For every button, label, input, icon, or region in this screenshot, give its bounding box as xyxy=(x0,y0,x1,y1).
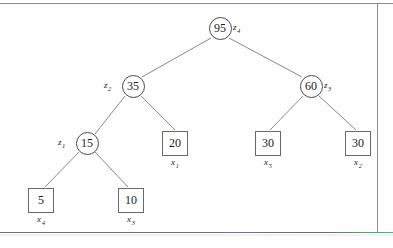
internal-node-left[interactable]: 35 xyxy=(122,75,145,98)
internal-node-right[interactable]: 60 xyxy=(300,75,323,98)
tree-edge xyxy=(95,152,128,187)
leaf-node-label-leaf10: x3 xyxy=(116,214,146,226)
leaf-node-leaf5[interactable]: 5 xyxy=(28,188,54,213)
internal-node-ll[interactable]: 15 xyxy=(76,132,99,155)
tree-edge xyxy=(45,152,79,187)
label-subscript: 2 xyxy=(358,162,362,169)
label-subscript: 1 xyxy=(62,142,66,149)
internal-node-label-root: z4 xyxy=(233,22,240,34)
leaf-node-label-leaf30a: x5 xyxy=(253,157,283,169)
label-subscript: 4 xyxy=(41,219,45,226)
tree-edge xyxy=(142,38,211,77)
leaf-node-leaf30a[interactable]: 30 xyxy=(255,131,281,156)
binary-tree-figure: 95z435z260z315z120x130x530x25x410x3 xyxy=(0,0,393,248)
label-subscript: 4 xyxy=(237,27,241,34)
tree-edge xyxy=(95,96,125,134)
internal-node-label-left: z2 xyxy=(104,80,111,92)
tree-edges xyxy=(0,0,393,248)
tree-edge xyxy=(270,96,303,130)
tree-edge xyxy=(319,96,356,130)
internal-node-label-ll: z1 xyxy=(58,137,65,149)
label-subscript: 2 xyxy=(108,85,112,92)
leaf-node-label-leaf5: x4 xyxy=(26,214,56,226)
leaf-node-label-leaf30b: x2 xyxy=(343,157,373,169)
leaf-node-leaf30b[interactable]: 30 xyxy=(345,131,371,156)
tree-edge xyxy=(141,96,175,130)
label-symbol: z xyxy=(58,137,62,147)
label-subscript: 5 xyxy=(268,162,272,169)
label-symbol: z xyxy=(104,80,108,90)
label-subscript: 3 xyxy=(131,219,135,226)
internal-node-root[interactable]: 95 xyxy=(209,17,232,40)
label-subscript: 1 xyxy=(175,162,179,169)
label-symbol: z xyxy=(324,80,328,90)
tree-edge xyxy=(229,38,302,77)
label-subscript: 3 xyxy=(328,85,332,92)
label-symbol: z xyxy=(233,22,237,32)
leaf-node-leaf20[interactable]: 20 xyxy=(162,131,188,156)
leaf-node-leaf10[interactable]: 10 xyxy=(118,188,144,213)
internal-node-label-right: z3 xyxy=(324,80,331,92)
leaf-node-label-leaf20: x1 xyxy=(160,157,190,169)
